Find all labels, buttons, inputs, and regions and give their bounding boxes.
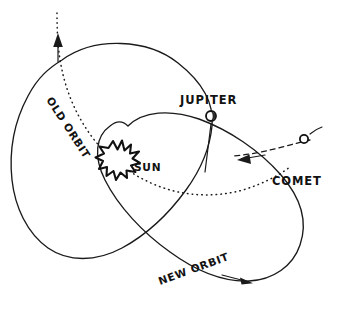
astronomy-diagram: SUN JUPITER COMET OLD ORBIT NEW ORBIT (0, 0, 341, 309)
comet-body (300, 127, 322, 143)
jupiter-label: JUPITER (179, 93, 237, 107)
jupiter-body (206, 111, 216, 121)
new-orbit-ellipse (98, 113, 304, 281)
sun-label: SUN (134, 161, 161, 173)
comet-arrow (237, 155, 265, 165)
new-orbit-label: NEW ORBIT (157, 250, 231, 287)
new-orbit-arrow (222, 275, 253, 285)
comet-tail-icon (310, 127, 322, 134)
old-orbit-path (57, 13, 290, 195)
diagram-canvas: SUN JUPITER COMET OLD ORBIT NEW ORBIT (0, 0, 341, 309)
jupiter-position-line (205, 124, 211, 172)
comet-circle-icon (300, 135, 308, 143)
comet-label: COMET (272, 174, 322, 188)
old-orbit-arrow (53, 33, 63, 62)
